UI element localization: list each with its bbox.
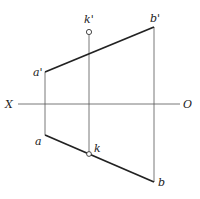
point-k-prime: [86, 29, 91, 34]
label-b: b: [158, 176, 165, 189]
projection-diagram: k' b' a' X O a k b: [0, 0, 200, 199]
label-b-prime: b': [150, 12, 160, 25]
segment-a-prime-b-prime: [45, 27, 154, 72]
label-k: k: [94, 142, 101, 155]
label-a: a: [35, 135, 42, 148]
point-k: [87, 152, 92, 157]
label-a-prime: a': [33, 66, 43, 79]
label-k-prime: k': [84, 13, 94, 26]
label-x-axis: X: [4, 98, 14, 111]
label-origin: O: [183, 98, 192, 111]
